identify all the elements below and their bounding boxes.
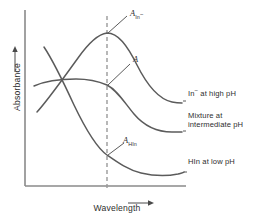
curve-hin-low-ph: [44, 47, 184, 175]
legend-item-hin-low-ph: HIn at low pH: [188, 157, 235, 166]
label-a-in-minus: AIn−: [130, 9, 144, 22]
label-a-in-minus-charge: −: [140, 11, 144, 17]
chart-canvas: [0, 0, 257, 217]
leader-a-in-minus: [108, 16, 127, 33]
legend-in-rest: at high pH: [198, 89, 236, 98]
leader-a-hin: [108, 143, 124, 155]
y-axis-title-wrap: Absorbance: [6, 44, 24, 130]
label-a-mixture: A: [133, 55, 138, 64]
legend-item-in-high-ph: In− at high pH: [188, 86, 236, 98]
label-a-hin-sub: HIn: [128, 141, 137, 147]
x-axis-title-wrap: Wavelength: [62, 197, 172, 215]
legend-item-mixture: Mixture at intermediate pH: [188, 111, 254, 130]
absorbance-spectra-figure: AIn− A AHIn In− at high pH Mixture at in…: [0, 0, 257, 217]
x-axis-title: Wavelength: [93, 203, 140, 213]
y-axis-title: Absorbance: [12, 63, 22, 111]
label-a-in-minus-sub: In−: [135, 14, 143, 20]
leader-a-mixture: [108, 64, 130, 85]
label-a-hin: AHIn: [123, 136, 137, 149]
